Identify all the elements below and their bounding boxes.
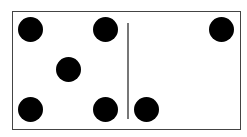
pip-left-top-left (18, 17, 43, 42)
pip-right-top-right (209, 17, 234, 42)
pip-right-bottom-left (134, 97, 159, 122)
pip-left-bottom-right (93, 97, 118, 122)
pip-left-center (56, 57, 81, 82)
pip-left-top-right (93, 17, 118, 42)
pip-left-bottom-left (18, 97, 43, 122)
domino-divider (127, 23, 129, 119)
